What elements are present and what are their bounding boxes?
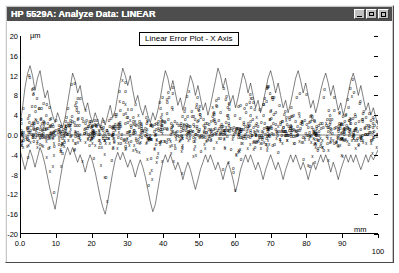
data-point-marker: o <box>318 123 321 128</box>
data-point-marker: o <box>237 104 240 109</box>
data-point-marker: x <box>113 136 116 141</box>
close-button[interactable] <box>378 9 389 19</box>
data-point-marker: o <box>228 107 231 112</box>
window-frame: HP 5529A: Analyze Data: LINEAR Linear Er… <box>5 5 394 263</box>
data-point-marker: o <box>159 106 162 111</box>
data-point-marker: o <box>167 117 170 122</box>
data-point-marker: o <box>247 134 250 139</box>
data-point-marker: o <box>28 73 31 78</box>
data-point-marker: o <box>27 155 30 160</box>
data-point-marker: o <box>119 108 122 113</box>
data-point-marker: x <box>314 160 317 165</box>
x-tick-label: 30 <box>123 239 131 248</box>
y-axis-unit-label: µm <box>30 31 41 40</box>
data-point-marker: o <box>329 113 332 118</box>
data-point-marker: o <box>138 119 141 124</box>
data-point-marker: x <box>156 160 159 165</box>
x-tick <box>56 234 57 238</box>
data-point-marker: x <box>298 114 301 119</box>
y-tick-label: -4 <box>11 150 18 159</box>
data-point-marker: o <box>53 129 56 134</box>
data-point-marker: o <box>274 110 277 115</box>
data-point-marker: o <box>238 127 241 132</box>
data-point-marker: o <box>200 133 203 138</box>
data-point-marker: x <box>84 108 87 113</box>
data-point-marker: x <box>260 146 263 151</box>
data-point-marker: o <box>70 82 73 87</box>
x-tick <box>127 234 128 238</box>
data-point-marker: o <box>219 110 222 115</box>
data-point-marker: o <box>323 87 326 92</box>
y-tick <box>374 194 378 195</box>
data-point-marker: o <box>251 117 254 122</box>
data-point-marker: x <box>181 171 184 176</box>
data-point-marker: o <box>292 113 295 118</box>
x-axis-unit-label: mm <box>354 225 367 234</box>
x-tick <box>342 234 343 238</box>
data-point-marker: o <box>372 121 375 126</box>
plot-title: Linear Error Plot - X Axis <box>139 32 239 46</box>
data-point-marker: x <box>79 138 82 143</box>
data-point-marker: o <box>253 107 256 112</box>
data-point-marker: x <box>161 159 164 164</box>
y-tick <box>374 214 378 215</box>
minimize-button[interactable] <box>354 9 365 19</box>
data-point-marker: x <box>103 152 106 157</box>
data-point-marker: x <box>106 199 109 204</box>
data-point-marker: o <box>52 124 55 129</box>
data-point-marker: o <box>217 96 220 101</box>
data-point-marker: o <box>198 127 201 132</box>
data-point-marker: x <box>48 145 51 150</box>
data-point-marker: o <box>320 126 323 131</box>
data-point-marker: o <box>29 128 32 133</box>
data-point-marker: o <box>177 123 180 128</box>
data-point-marker: o <box>314 119 317 124</box>
data-point-marker: x <box>52 164 55 169</box>
data-point-marker: x <box>195 153 198 158</box>
x-tick-label: 0.0 <box>15 239 25 248</box>
data-point-marker: o <box>267 84 270 89</box>
plot-canvas: oooooooooooooooooooooooooooooooooooooooo… <box>20 36 378 234</box>
data-point-marker: o <box>88 119 91 124</box>
y-tick-label: 20 <box>10 32 18 41</box>
data-point-marker: o <box>22 106 25 111</box>
plot-panel: Linear Error Plot - X Axis ooooooooooooo… <box>7 21 392 262</box>
data-point-marker: o <box>75 100 78 105</box>
y-tick <box>374 95 378 96</box>
x-tick <box>306 234 307 238</box>
y-tick <box>374 56 378 57</box>
data-point-marker: o <box>172 91 175 96</box>
y-tick <box>374 76 378 77</box>
data-point-marker: o <box>27 116 30 121</box>
data-point-marker: x <box>81 159 84 164</box>
data-point-marker: o <box>361 117 364 122</box>
data-point-marker: o <box>223 86 226 91</box>
data-point-marker: o <box>150 156 153 161</box>
data-point-marker: o <box>186 94 189 99</box>
data-point-marker: o <box>166 126 169 131</box>
data-point-marker: o <box>133 128 136 133</box>
data-point-marker: o <box>118 89 121 94</box>
data-point-marker: o <box>376 119 378 124</box>
data-point-marker: o <box>26 126 29 131</box>
data-point-marker: o <box>309 119 312 124</box>
data-point-marker: o <box>102 119 105 124</box>
data-point-marker: x <box>94 143 97 148</box>
y-tick <box>374 155 378 156</box>
data-point-marker: o <box>199 112 202 117</box>
data-point-marker: o <box>239 116 242 121</box>
data-point-marker: o <box>273 95 276 100</box>
data-point-marker: x <box>241 141 244 146</box>
maximize-button[interactable] <box>366 9 377 19</box>
data-point-marker: o <box>359 101 362 106</box>
data-point-marker: o <box>240 157 243 162</box>
data-point-marker: o <box>84 126 87 131</box>
data-point-marker: o <box>74 123 77 128</box>
data-point-marker: x <box>170 151 173 156</box>
title-bar[interactable]: HP 5529A: Analyze Data: LINEAR <box>7 7 392 21</box>
x-tick-label: 40 <box>159 239 167 248</box>
data-point-marker: x <box>286 138 289 143</box>
data-point-marker: x <box>327 158 330 163</box>
plot-svg: oooooooooooooooooooooooooooooooooooooooo… <box>20 36 378 234</box>
data-point-marker: x <box>67 138 70 143</box>
